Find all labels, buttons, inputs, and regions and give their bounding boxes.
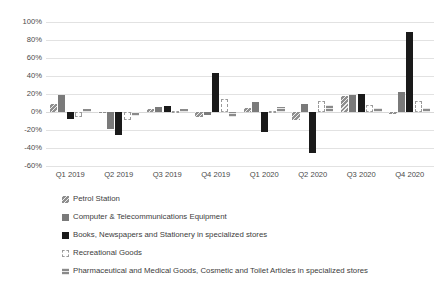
bar[interactable] — [195, 112, 202, 117]
bar[interactable] — [221, 99, 228, 112]
bar[interactable] — [98, 112, 105, 113]
legend-item[interactable]: Petrol Station — [62, 190, 442, 208]
bar-chart: Q1 2019Q2 2019Q3 2019Q4 2019Q1 2020Q2 20… — [0, 0, 446, 284]
chart-legend: Petrol StationComputer & Telecommunicati… — [62, 190, 442, 280]
bar[interactable] — [309, 112, 316, 153]
bar[interactable] — [75, 112, 82, 117]
bar[interactable] — [155, 107, 162, 112]
legend-swatch-icon — [62, 214, 69, 221]
legend-swatch-icon — [62, 268, 69, 275]
legend-label: Petrol Station — [73, 195, 120, 203]
bar-group: Q1 2020 — [240, 22, 289, 166]
x-axis-tick-label: Q2 2020 — [289, 170, 338, 179]
bar-cluster — [289, 22, 338, 166]
legend-swatch-icon — [62, 250, 69, 257]
bar[interactable] — [180, 109, 187, 112]
bar[interactable] — [83, 109, 90, 112]
bar[interactable] — [318, 101, 325, 112]
legend-label: Books, Newspapers and Stationery in spec… — [73, 231, 267, 239]
legend-label: Computer & Telecommunications Equipment — [73, 213, 227, 221]
legend-item[interactable]: Recreational Goods — [62, 244, 442, 262]
legend-item[interactable]: Pharmaceutical and Medical Goods, Cosmet… — [62, 262, 442, 280]
bar[interactable] — [147, 109, 154, 112]
y-axis-tick-label: 60% — [0, 54, 42, 62]
bar-cluster — [192, 22, 241, 166]
bar-group: Q1 2019 — [46, 22, 95, 166]
bar[interactable] — [415, 101, 422, 112]
bar-cluster — [240, 22, 289, 166]
gridline — [46, 166, 434, 167]
legend-swatch-icon — [62, 232, 69, 239]
x-axis-tick-label: Q3 2019 — [143, 170, 192, 179]
y-axis-tick-label: -60% — [0, 162, 42, 170]
bar-group: Q3 2019 — [143, 22, 192, 166]
bar-cluster — [143, 22, 192, 166]
bar[interactable] — [366, 105, 373, 112]
bar[interactable] — [115, 112, 122, 135]
bar-cluster — [95, 22, 144, 166]
bar[interactable] — [204, 112, 211, 115]
bar-cluster — [337, 22, 386, 166]
legend-label: Pharmaceutical and Medical Goods, Cosmet… — [73, 267, 368, 275]
y-axis-tick-label: 80% — [0, 36, 42, 44]
legend-item[interactable]: Computer & Telecommunications Equipment — [62, 208, 442, 226]
bar-cluster — [386, 22, 435, 166]
bar-group: Q2 2019 — [95, 22, 144, 166]
bar[interactable] — [269, 111, 276, 113]
x-axis-tick-label: Q3 2020 — [337, 170, 386, 179]
bar[interactable] — [124, 112, 131, 120]
x-axis-tick-label: Q4 2019 — [192, 170, 241, 179]
y-axis-tick-label: 100% — [0, 18, 42, 26]
bar-group: Q4 2020 — [386, 22, 435, 166]
bar-group: Q3 2020 — [337, 22, 386, 166]
x-axis-tick-label: Q1 2020 — [240, 170, 289, 179]
x-axis-tick-label: Q1 2019 — [46, 170, 95, 179]
plot-area: Q1 2019Q2 2019Q3 2019Q4 2019Q1 2020Q2 20… — [46, 22, 434, 166]
bar[interactable] — [244, 108, 251, 112]
bar-group: Q2 2020 — [289, 22, 338, 166]
bar[interactable] — [277, 107, 284, 112]
bar[interactable] — [58, 95, 65, 112]
bar[interactable] — [292, 112, 299, 120]
bar[interactable] — [132, 112, 139, 116]
x-axis-tick-label: Q4 2020 — [386, 170, 435, 179]
bar[interactable] — [107, 112, 114, 129]
y-axis-tick-label: 0% — [0, 108, 42, 116]
bar[interactable] — [341, 96, 348, 112]
bar[interactable] — [67, 112, 74, 119]
y-axis-tick-label: -40% — [0, 144, 42, 152]
bar-group: Q4 2019 — [192, 22, 241, 166]
bar[interactable] — [389, 112, 396, 114]
bar[interactable] — [172, 111, 179, 113]
bar[interactable] — [326, 105, 333, 112]
bar[interactable] — [349, 95, 356, 112]
bar[interactable] — [164, 106, 171, 112]
legend-item[interactable]: Books, Newspapers and Stationery in spec… — [62, 226, 442, 244]
bar[interactable] — [50, 104, 57, 112]
bar[interactable] — [229, 112, 236, 117]
y-axis-tick-label: 40% — [0, 72, 42, 80]
bar-cluster — [46, 22, 95, 166]
bar[interactable] — [406, 32, 413, 112]
y-axis-tick-label: 20% — [0, 90, 42, 98]
bar[interactable] — [398, 92, 405, 112]
bar[interactable] — [423, 108, 430, 112]
bar[interactable] — [358, 94, 365, 112]
bar[interactable] — [301, 104, 308, 112]
legend-swatch-icon — [62, 196, 69, 203]
bar[interactable] — [261, 112, 268, 132]
bar[interactable] — [374, 108, 381, 113]
bar[interactable] — [252, 102, 259, 112]
y-axis-tick-label: -20% — [0, 126, 42, 134]
legend-label: Recreational Goods — [73, 249, 142, 257]
bar[interactable] — [212, 73, 219, 112]
x-axis-tick-label: Q2 2019 — [95, 170, 144, 179]
